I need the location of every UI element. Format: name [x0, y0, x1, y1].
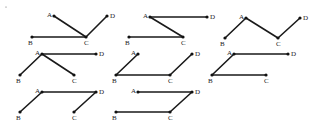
- label-a: A: [131, 87, 136, 95]
- point-d: [105, 14, 108, 17]
- panel-1: ABCD: [28, 11, 115, 47]
- segment-ab: [212, 54, 234, 75]
- point-d: [94, 52, 97, 55]
- label-d: D: [210, 13, 215, 21]
- label-c: C: [168, 77, 173, 85]
- segment-ac: [246, 18, 278, 38]
- label-c: C: [72, 114, 77, 122]
- point-d: [205, 15, 208, 18]
- label-c: C: [72, 77, 77, 85]
- point-d: [286, 52, 289, 55]
- label-d: D: [195, 88, 200, 96]
- label-d: D: [99, 88, 104, 96]
- label-b: B: [28, 39, 33, 47]
- point-a: [148, 15, 151, 18]
- label-c: C: [276, 40, 281, 48]
- label-d: D: [291, 50, 296, 58]
- panel-4: ABCD: [16, 49, 104, 85]
- label-a: A: [131, 49, 136, 57]
- label-a: A: [35, 87, 40, 95]
- point-d: [298, 16, 301, 19]
- segment-ac: [150, 17, 183, 37]
- point-d: [94, 90, 97, 93]
- label-a: A: [143, 12, 148, 20]
- label-b: B: [208, 77, 213, 85]
- segment-cd: [170, 54, 192, 75]
- segment-ac: [42, 54, 74, 75]
- point-d: [190, 52, 193, 55]
- point-d: [190, 90, 193, 93]
- label-d: D: [110, 12, 115, 20]
- point-a: [40, 52, 43, 55]
- label-d: D: [99, 50, 104, 58]
- label-d: D: [303, 14, 308, 22]
- point-a: [136, 90, 139, 93]
- label-a: A: [227, 49, 232, 57]
- point-a: [244, 16, 247, 19]
- point-a: [52, 14, 55, 17]
- segment-cd: [278, 18, 300, 38]
- segment-ab: [20, 54, 42, 75]
- panel-6: ABCD: [208, 49, 296, 85]
- panel-2: ABCD: [125, 12, 215, 47]
- label-a: A: [239, 13, 244, 21]
- label-d: D: [195, 50, 200, 58]
- label-b: B: [16, 114, 21, 122]
- label-b: B: [220, 40, 225, 48]
- panel-3: ABCD: [220, 13, 308, 48]
- label-c: C: [84, 39, 89, 47]
- label-b: B: [112, 114, 117, 122]
- panel-8: ABCD: [112, 87, 200, 122]
- segment-ac: [54, 16, 86, 37]
- segment-configurations-figure: ABCDABCDABCDABCDABCDABCDABCDABCD: [0, 0, 316, 124]
- label-c: C: [168, 114, 173, 122]
- segment-ab: [116, 54, 138, 75]
- label-c: C: [264, 77, 269, 85]
- label-c: C: [181, 39, 186, 47]
- panel-5: ABCD: [112, 49, 200, 85]
- point-a: [136, 52, 139, 55]
- label-b: B: [125, 39, 130, 47]
- segment-cd: [86, 16, 107, 37]
- scan-speck: [5, 6, 6, 7]
- segment-ab: [20, 92, 42, 112]
- label-a: A: [47, 11, 52, 19]
- panel-7: ABCD: [16, 87, 104, 122]
- label-b: B: [112, 77, 117, 85]
- label-b: B: [16, 77, 21, 85]
- segment-dc: [74, 92, 96, 112]
- segment-ba: [225, 18, 246, 38]
- point-a: [40, 90, 43, 93]
- point-a: [232, 52, 235, 55]
- label-a: A: [35, 49, 40, 57]
- segment-cd: [170, 92, 192, 112]
